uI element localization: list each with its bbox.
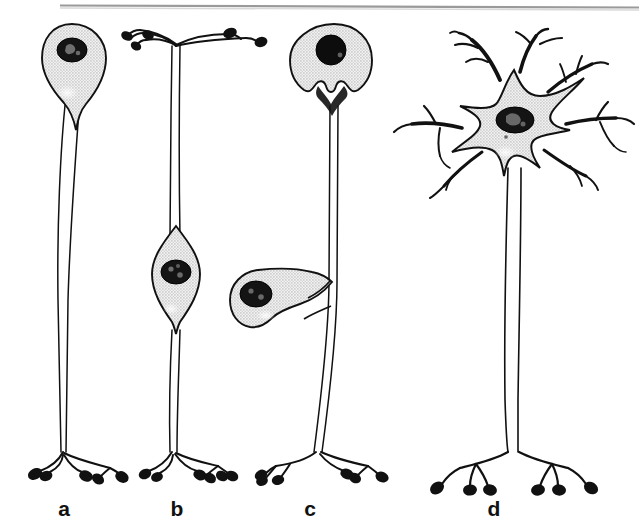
neuron-a-unipolar <box>26 24 131 487</box>
panel-label-a: a <box>44 498 84 519</box>
neuron-illustration <box>0 0 639 532</box>
panel-label-d: d <box>474 498 514 519</box>
neuron-d-boutons <box>428 479 601 497</box>
panel-label-b: b <box>157 498 197 519</box>
neuron-b-nucleus <box>161 260 191 284</box>
neuron-b-bipolar <box>120 26 269 485</box>
neuron-c-nucleus-top <box>316 35 346 65</box>
neuron-d-multipolar <box>394 29 634 497</box>
horizontal-rule <box>60 6 639 11</box>
neuron-b-axon-terminals <box>149 452 228 474</box>
neuron-a-axon <box>58 96 80 452</box>
neuron-b-axon <box>170 330 180 452</box>
neuron-a-nucleus <box>57 38 87 62</box>
neuron-c-axon-terminals <box>266 452 378 478</box>
panel-label-c: c <box>290 498 330 519</box>
neuron-a-boutons <box>26 466 131 487</box>
neuron-d-axon-terminals <box>442 452 586 486</box>
neuron-c-pseudounipolar <box>230 24 390 488</box>
neuron-b-dendrite-stem <box>170 46 180 238</box>
neuron-diagram-figure: a b c d <box>0 0 639 532</box>
neuron-d-axon <box>505 168 521 452</box>
neuron-c-nucleus-lateral <box>240 281 272 307</box>
